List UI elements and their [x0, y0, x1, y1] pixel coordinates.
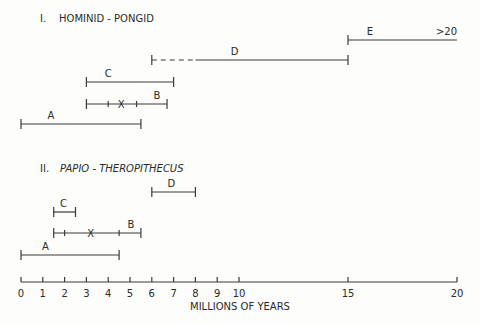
range-2-a: A	[21, 241, 119, 260]
range-label: C	[105, 68, 112, 79]
range-2-b: XB	[54, 219, 141, 239]
axis-tick-label: 15	[342, 288, 355, 299]
axis-tick-label: 8	[192, 288, 198, 299]
range-bars: E>20DCXBADCXBA	[21, 26, 457, 260]
axis-tick-label: 2	[61, 288, 67, 299]
mean-marker: X	[87, 228, 94, 239]
panel1-numeral: I.	[40, 13, 46, 24]
range-1-a: A	[21, 110, 141, 129]
axis-tick-label: 5	[127, 288, 133, 299]
axis-tick-label: 20	[451, 288, 464, 299]
range-label: D	[231, 46, 239, 57]
panel1-title: HOMINID - PONGID	[59, 13, 154, 24]
range-chart: I. HOMINID - PONGID II. PAPIO - THEROPIT…	[0, 0, 480, 324]
range-label: C	[60, 198, 67, 209]
range-label: B	[127, 219, 134, 230]
range-label: D	[168, 178, 176, 189]
axis-tick-label: 7	[170, 288, 176, 299]
axis-tick-label: 3	[83, 288, 89, 299]
range-label: A	[48, 110, 55, 121]
range-label: E	[367, 26, 373, 37]
axis-tick-label: 1	[40, 288, 46, 299]
mean-marker: X	[118, 99, 125, 110]
range-2-d: D	[152, 178, 196, 197]
range-1-e: E>20	[348, 26, 457, 45]
axis-tick-label: 6	[149, 288, 155, 299]
range-2-c: C	[54, 198, 76, 217]
axis-tick-label: 10	[233, 288, 246, 299]
axis-tick-label: 0	[18, 288, 24, 299]
panel2-numeral: II.	[40, 163, 49, 174]
x-axis-label: MILLIONS OF YEARS	[190, 301, 290, 312]
axis-tick-label: 4	[105, 288, 111, 299]
x-axis: 0123456789101520	[18, 277, 464, 299]
range-end-label: >20	[436, 26, 457, 37]
panel2-title: PAPIO - THEROPITHECUS	[60, 163, 184, 174]
range-1-c: C	[86, 68, 173, 87]
range-label: B	[154, 90, 161, 101]
range-label: A	[42, 241, 49, 252]
axis-tick-label: 9	[214, 288, 220, 299]
range-1-d: D	[152, 46, 348, 65]
range-1-b: XB	[86, 90, 167, 110]
